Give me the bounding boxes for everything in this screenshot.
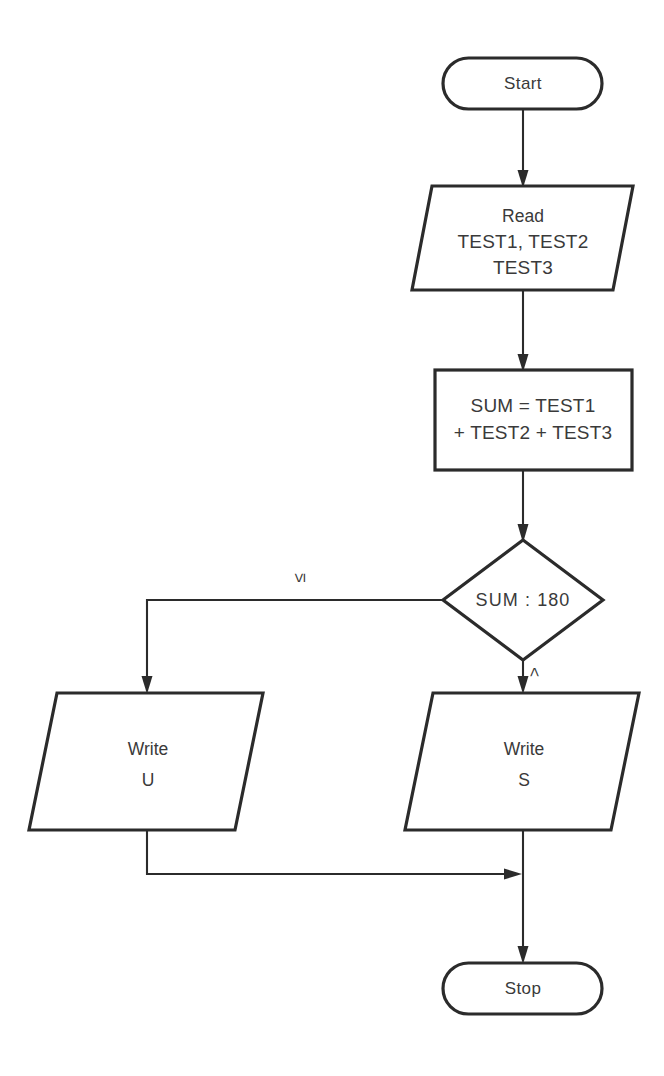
branch-label-greater-than: >	[525, 667, 544, 677]
start-label: Start	[504, 74, 542, 93]
branch-label-right-group: >	[525, 667, 544, 677]
sum-process-shape	[435, 370, 632, 470]
stop-label: Stop	[505, 979, 542, 998]
connector-read-to-sum	[518, 290, 529, 372]
node-start[interactable]: Start	[443, 58, 602, 109]
node-read[interactable]: Read TEST1, TEST2 TEST3	[412, 186, 633, 290]
flowchart-svg: ≤ > Start Read TEST1, TEST2 TEST3 SUM = …	[0, 0, 664, 1076]
write-u-label-line1: Write	[128, 739, 169, 759]
node-stop[interactable]: Stop	[443, 963, 602, 1014]
sum-label-line2: + TEST2 + TEST3	[454, 422, 613, 443]
branch-label-left-group: ≤	[290, 573, 309, 582]
node-write-s[interactable]: Write S	[405, 693, 639, 830]
write-s-parallelogram-shape	[405, 693, 639, 830]
decision-label: SUM : 180	[476, 590, 571, 610]
sum-label-line1: SUM = TEST1	[471, 395, 596, 416]
node-decision[interactable]: SUM : 180	[443, 540, 603, 660]
connector-sum-to-decision	[518, 470, 529, 543]
connector-start-to-read	[518, 108, 529, 188]
branch-label-less-equal: ≤	[290, 573, 309, 582]
write-s-label-line2: S	[518, 770, 530, 790]
write-s-label-line1: Write	[504, 739, 545, 759]
node-write-u[interactable]: Write U	[29, 693, 263, 830]
write-u-parallelogram-shape	[29, 693, 263, 830]
read-label-line1: Read	[502, 206, 544, 226]
connector-decision-to-write-u	[142, 600, 444, 694]
flowchart-canvas: ≤ > Start Read TEST1, TEST2 TEST3 SUM = …	[0, 0, 664, 1076]
read-label-line3: TEST3	[493, 257, 553, 278]
connector-write-u-to-merge	[147, 830, 522, 880]
node-sum[interactable]: SUM = TEST1 + TEST2 + TEST3	[435, 370, 632, 470]
read-label-line2: TEST1, TEST2	[458, 231, 589, 252]
connector-write-s-to-stop	[518, 830, 529, 964]
write-u-label-line2: U	[142, 770, 155, 790]
